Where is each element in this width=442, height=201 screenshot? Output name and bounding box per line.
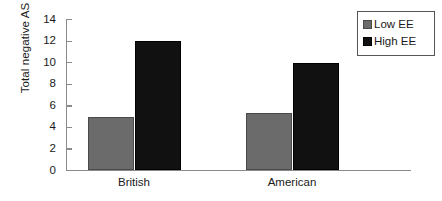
legend-item-high-ee: High EE: [363, 33, 429, 50]
x-axis-category-label: British: [74, 176, 194, 188]
y-axis-tick-label: 14: [34, 14, 56, 26]
x-axis-category-label: American: [232, 176, 352, 188]
legend-item-low-ee: Low EE: [363, 16, 429, 33]
legend-label-high-ee: High EE: [374, 36, 416, 48]
y-axis-title: Total negative AS: [19, 0, 31, 123]
y-axis-tick-label: 4: [34, 121, 56, 133]
bar-british-low-ee: [88, 117, 134, 171]
x-axis-line: [66, 170, 411, 171]
chart-legend: Low EE High EE: [357, 11, 435, 56]
legend-swatch-high-ee-icon: [363, 37, 372, 46]
bar-british-high-ee: [135, 41, 181, 170]
bar-american-high-ee: [293, 63, 339, 171]
y-axis-tick-label: 10: [34, 57, 56, 69]
y-axis-tick-label: 6: [34, 100, 56, 112]
y-axis-line: [66, 19, 67, 171]
bar-american-low-ee: [246, 113, 292, 170]
legend-label-low-ee: Low EE: [374, 19, 414, 31]
y-axis-tick-label: 12: [34, 35, 56, 47]
bar-chart: Total negative AS 02468101214 BritishAme…: [0, 0, 442, 201]
legend-swatch-low-ee-icon: [363, 20, 372, 29]
y-axis-tick-label: 2: [34, 143, 56, 155]
y-axis-tick-label: 0: [34, 165, 56, 177]
y-axis-tick-label: 8: [34, 78, 56, 90]
